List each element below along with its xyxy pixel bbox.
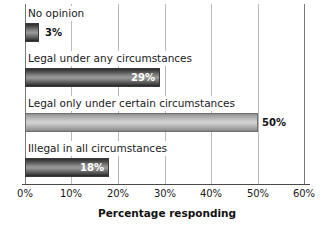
- x-tick-label-20: 20%: [107, 188, 129, 199]
- bar-chart: No opinion 3% Legal under any circumstan…: [0, 0, 334, 230]
- x-axis-title: Percentage responding: [0, 207, 334, 219]
- x-axis-line: [22, 184, 310, 185]
- bar-value-label: 50%: [262, 113, 286, 132]
- bar-row: Legal only under certain circumstances 5…: [25, 94, 305, 139]
- bar-category-label: Illegal in all circumstances: [27, 141, 170, 156]
- x-tick-label-10: 10%: [60, 188, 82, 199]
- bar-category-label: No opinion: [27, 6, 87, 21]
- bar-value-label: 29%: [131, 68, 155, 87]
- bar-no-opinion: [25, 23, 39, 42]
- plot-area: No opinion 3% Legal under any circumstan…: [25, 4, 305, 184]
- bar-value-label: 3%: [45, 23, 62, 42]
- bar-value-label: 18%: [80, 158, 104, 177]
- bar-row: Legal under any circumstances 29%: [25, 49, 305, 94]
- x-tick-label-50: 50%: [247, 188, 269, 199]
- x-tick-label-40: 40%: [200, 188, 222, 199]
- x-tick-label-30: 30%: [154, 188, 176, 199]
- x-tick-label-0: 0%: [17, 188, 33, 199]
- bar-row: Illegal in all circumstances 18%: [25, 139, 305, 184]
- bar-category-label: Legal under any circumstances: [27, 51, 195, 66]
- bar-row: No opinion 3%: [25, 4, 305, 49]
- bar-category-label: Legal only under certain circumstances: [27, 96, 238, 111]
- bar-legal-certain: [25, 113, 258, 132]
- x-tick-label-60: 60%: [293, 188, 315, 199]
